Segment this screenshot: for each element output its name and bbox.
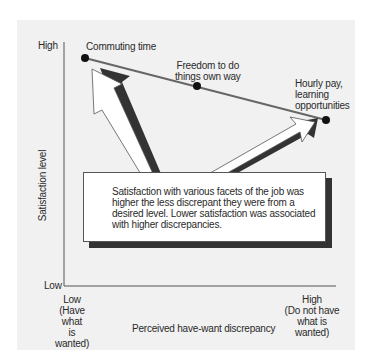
x-axis-title: Perceived have-want discrepancy bbox=[132, 323, 275, 334]
label-hourly-pay: Hourly pay, learning opportunities bbox=[295, 78, 350, 111]
y-high-label: High bbox=[38, 40, 58, 51]
x-high-label: High (Do not have what is wanted) bbox=[282, 294, 342, 338]
callout-box: Satisfaction with various facets of the … bbox=[83, 172, 326, 242]
label-commuting-time: Commuting time bbox=[86, 41, 156, 52]
y-axis-title: Satisfaction level bbox=[37, 136, 48, 236]
x-low-label: Low (Have what is wanted) bbox=[52, 294, 92, 349]
right-arrow-icon bbox=[205, 117, 315, 176]
point-freedom bbox=[193, 82, 201, 90]
point-commuting-time bbox=[81, 54, 89, 62]
point-hourly-pay bbox=[322, 116, 330, 124]
y-low-label: Low bbox=[44, 280, 62, 291]
callout-text: Satisfaction with various facets of the … bbox=[112, 186, 317, 230]
label-freedom: Freedom to do things own way bbox=[175, 60, 241, 82]
